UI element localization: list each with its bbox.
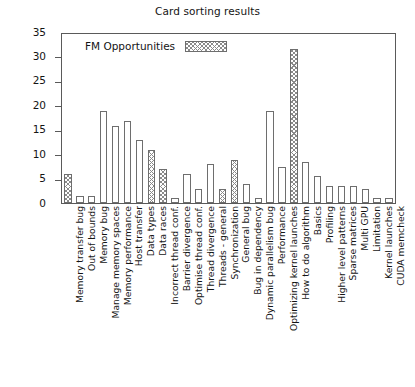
x-tick-label-text: Memory performance bbox=[122, 206, 134, 305]
bar bbox=[148, 150, 155, 203]
x-tick-label-text: Dynamic parallelism bug bbox=[264, 206, 276, 320]
bar bbox=[302, 162, 309, 203]
x-tick-label-text: Limitation bbox=[371, 206, 383, 252]
x-tick-label: Optimise thread conf. bbox=[193, 206, 205, 381]
legend: FM Opportunities bbox=[85, 40, 227, 52]
x-tick-label-text: Memory transfer bug bbox=[74, 206, 86, 303]
bar bbox=[326, 186, 333, 203]
bar bbox=[373, 198, 380, 203]
x-tick-label: Threads - general bbox=[217, 206, 229, 381]
bar bbox=[243, 184, 250, 203]
bar bbox=[112, 126, 119, 203]
bar bbox=[183, 174, 190, 203]
legend-swatch-fm-opportunities bbox=[185, 41, 227, 52]
x-tick-label-text: Barrier divergence bbox=[181, 206, 193, 291]
x-tick-label-text: Multi GPU bbox=[359, 206, 371, 251]
bar bbox=[76, 196, 83, 203]
bar-series bbox=[62, 34, 395, 203]
bar bbox=[88, 196, 95, 203]
y-tick-label: 25 bbox=[33, 74, 46, 86]
x-tick-label: Dynamic parallelism bug bbox=[264, 206, 276, 381]
x-tick-label-text: Kernel launches bbox=[383, 206, 395, 279]
x-tick-label: Basics bbox=[312, 206, 324, 381]
chart-root: Card sorting results nr. of Questions 05… bbox=[0, 0, 415, 387]
x-tick-label: Memory performance bbox=[122, 206, 134, 381]
y-tick-label: 5 bbox=[39, 172, 46, 184]
x-tick-label: How to do algorithm bbox=[300, 206, 312, 381]
y-tick-label: 30 bbox=[33, 50, 46, 62]
x-tick-label: Thread divergence bbox=[205, 206, 217, 381]
x-tick-label-text: Synchronization bbox=[229, 206, 241, 280]
x-tick-label-text: Optimise thread conf. bbox=[193, 206, 205, 305]
y-tick-label: 20 bbox=[33, 99, 46, 111]
x-tick-label: Optimizing kernel launches bbox=[288, 206, 300, 381]
x-tick-label: Bug in dependency bbox=[252, 206, 264, 381]
x-tick-label-text: How to do algorithm bbox=[300, 206, 312, 300]
legend-label: FM Opportunities bbox=[85, 40, 175, 52]
bar bbox=[195, 189, 202, 203]
y-tick-label: 10 bbox=[33, 148, 46, 160]
bar bbox=[159, 169, 166, 203]
x-tick-label: Data types bbox=[145, 206, 157, 381]
x-tick-label: Out of bounds bbox=[86, 206, 98, 381]
bar bbox=[314, 176, 321, 203]
bar bbox=[385, 198, 392, 203]
bar bbox=[100, 111, 107, 203]
x-tick-label: Barrier divergence bbox=[181, 206, 193, 381]
x-tick-label: CUDA memcheck bbox=[395, 206, 407, 381]
bar bbox=[124, 121, 131, 203]
x-tick-label: General bug bbox=[240, 206, 252, 381]
bar bbox=[255, 198, 262, 203]
x-tick-label-text: Basics bbox=[312, 206, 324, 235]
x-tick-label-text: Sparse matrices bbox=[347, 206, 359, 280]
x-tick-label-text: CUDA memcheck bbox=[395, 206, 407, 286]
x-tick-label: Synchronization bbox=[229, 206, 241, 381]
bar bbox=[266, 111, 273, 203]
x-tick-label: Memory transfer bug bbox=[74, 206, 86, 381]
chart-title: Card sorting results bbox=[0, 5, 415, 17]
bar bbox=[290, 49, 297, 204]
x-tick-label-text: Incorrect thread conf. bbox=[169, 206, 181, 305]
x-tick-label: Sparse matrices bbox=[347, 206, 359, 381]
bar bbox=[278, 167, 285, 203]
bar bbox=[338, 186, 345, 203]
x-tick-label: Incorrect thread conf. bbox=[169, 206, 181, 381]
x-tick-label: Performance bbox=[276, 206, 288, 381]
y-tick-label: 0 bbox=[39, 197, 46, 209]
bar bbox=[350, 186, 357, 203]
x-tick-label: Kernel launches bbox=[383, 206, 395, 381]
x-tick-label: Manage memory spaces bbox=[110, 206, 122, 381]
x-tick-label-text: Data types bbox=[145, 206, 157, 256]
x-tick-label: Data races bbox=[157, 206, 169, 381]
bar bbox=[136, 140, 143, 203]
x-tick-label-text: Manage memory spaces bbox=[110, 206, 122, 318]
bar bbox=[171, 198, 178, 203]
x-tick-label: Profiling bbox=[324, 206, 336, 381]
x-tick-label: Limitation bbox=[371, 206, 383, 381]
x-tick-label-text: Threads - general bbox=[217, 206, 229, 287]
x-tick-label: Host transfer bbox=[133, 206, 145, 381]
bar bbox=[362, 189, 369, 203]
x-tick-label: Memory bug bbox=[98, 206, 110, 381]
x-tick-label-text: Out of bounds bbox=[86, 206, 98, 271]
y-tick-label: 15 bbox=[33, 123, 46, 135]
x-tick-label-text: Host transfer bbox=[133, 206, 145, 266]
x-tick-label-text: General bug bbox=[240, 206, 252, 263]
x-tick-label-text: Data races bbox=[157, 206, 169, 256]
bar bbox=[207, 164, 214, 203]
x-tick-label-text: Bug in dependency bbox=[252, 206, 264, 295]
x-tick-label: Higher level patterns bbox=[336, 206, 348, 381]
x-tick-label-text: Higher level patterns bbox=[336, 206, 348, 303]
y-tick-label: 35 bbox=[33, 26, 46, 38]
bar bbox=[231, 160, 238, 203]
x-tick-label: Multi GPU bbox=[359, 206, 371, 381]
bar bbox=[219, 189, 226, 203]
x-tick-label-text: Optimizing kernel launches bbox=[288, 206, 300, 331]
x-axis-tick-labels: Memory transfer bugOut of boundsMemory b… bbox=[62, 206, 395, 387]
x-tick-label-text: Memory bug bbox=[98, 206, 110, 264]
bar bbox=[64, 174, 71, 203]
x-tick-label-text: Thread divergence bbox=[205, 206, 217, 292]
x-tick-label-text: Performance bbox=[276, 206, 288, 264]
x-tick-label-text: Profiling bbox=[324, 206, 336, 243]
